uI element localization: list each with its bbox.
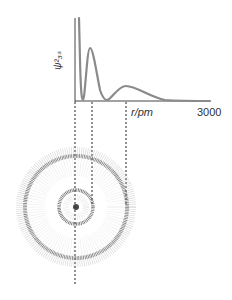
y-axis-label: ψ²₃ₛ	[52, 51, 63, 70]
orbital-dot-image	[21, 152, 131, 262]
probability-curve	[79, 18, 210, 101]
x-max-tick-label: 3000	[197, 106, 221, 118]
x-axis-label: r/pm	[131, 106, 153, 118]
orbital-diagram	[0, 0, 232, 300]
